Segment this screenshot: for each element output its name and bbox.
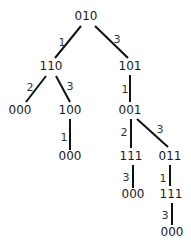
tree-node: 000: [161, 225, 184, 239]
tree-node: 000: [59, 149, 82, 163]
tree-node: 110: [40, 59, 63, 73]
edge-label: 3: [157, 123, 164, 136]
edge-label: 2: [27, 81, 34, 94]
tree-diagram: 13231123313 0101101010001000010001110110…: [0, 0, 191, 250]
edge-label: 3: [123, 171, 130, 184]
tree-node: 111: [120, 149, 143, 163]
edge-label: 1: [61, 131, 68, 144]
edge-label: 3: [114, 33, 121, 46]
edges-group: [26, 26, 172, 225]
tree-edge: [95, 26, 128, 58]
tree-node: 010: [75, 9, 98, 23]
tree-node: 000: [9, 103, 32, 117]
edge-label: 1: [160, 172, 167, 185]
tree-node: 001: [119, 103, 142, 117]
tree-node: 011: [159, 149, 182, 163]
tree-node: 101: [119, 59, 142, 73]
tree-node: 000: [122, 187, 145, 201]
edge-label: 3: [162, 209, 169, 222]
edge-label: 3: [67, 80, 74, 93]
tree-node: 100: [59, 103, 82, 117]
edge-label: 2: [121, 126, 128, 139]
edge-label: 1: [59, 36, 66, 49]
tree-node: 111: [160, 187, 183, 201]
edge-label: 1: [122, 83, 129, 96]
